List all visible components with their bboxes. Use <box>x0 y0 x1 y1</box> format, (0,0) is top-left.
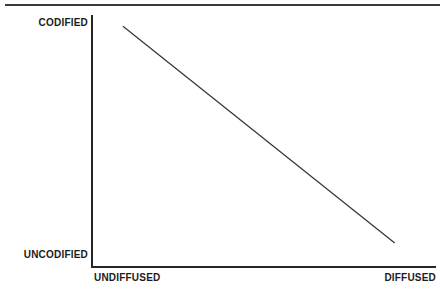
x-axis-right-label: DIFFUSED <box>384 272 436 284</box>
y-axis-bottom-label: UNCODIFIED <box>24 249 88 261</box>
diagram-canvas: CODIFIED UNCODIFIED UNDIFFUSED DIFFUSED <box>0 0 446 298</box>
y-axis-line <box>91 15 93 268</box>
x-axis-line <box>91 266 436 268</box>
y-axis-top-label: CODIFIED <box>39 17 88 29</box>
diagonal-trend-line <box>123 26 395 243</box>
top-divider-rule <box>5 4 440 6</box>
x-axis-left-label: UNDIFFUSED <box>94 272 160 284</box>
